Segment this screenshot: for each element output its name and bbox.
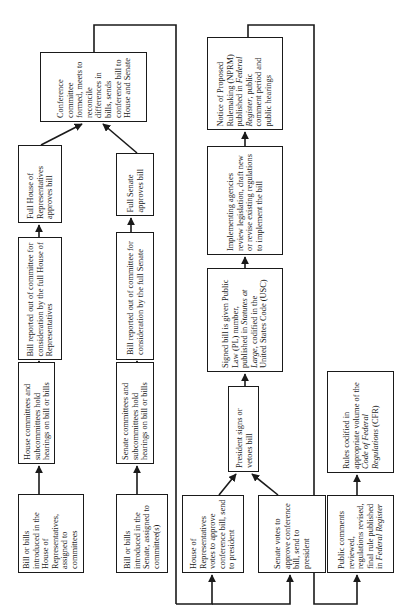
node-senate-intro: Bill or bills introduced in the Senate, … [116, 494, 168, 573]
node-label: Full House of Representatives approves b… [26, 149, 55, 219]
edge-senate-votes-to-president [252, 474, 278, 495]
node-senate-approves: Full Senate approves bill [116, 153, 154, 216]
node-house-reported: Bill reported out of committee for consi… [18, 237, 62, 360]
node-label: House of Representatives votes to approv… [189, 499, 237, 569]
node-house-votes: House of Representatives votes to approv… [182, 495, 244, 573]
edge-house-votes-to-president [219, 474, 236, 495]
node-label: Bill or bills introduced in the Senate, … [123, 499, 161, 569]
italic-title: Federal Register [375, 504, 384, 561]
node-signed-bill: Signed bill is given Public Law (PL) num… [207, 268, 283, 372]
node-house-hearings: House committees and subcommittees hold … [18, 362, 55, 464]
label-part: (CFR) [370, 405, 379, 429]
node-label: Implementing agencies review legislation… [226, 151, 264, 251]
node-label: Full Senate approves bill [126, 157, 145, 212]
node-implementing: Implementing agencies review legislation… [207, 146, 283, 255]
node-senate-hearings: Senate committees and subcommittees hold… [116, 362, 154, 464]
node-label: Bill reported out of committee for consi… [126, 237, 145, 355]
node-label: Public comments reviewed, regulations re… [337, 499, 385, 569]
node-house-intro: Bill or bills introduced in the House of… [18, 494, 84, 573]
node-president: President signs or vetoes bill [228, 386, 259, 472]
node-nprm: Notice of Proposed Rulemaking (NPRM) pub… [207, 37, 283, 130]
node-senate-votes: Senate votes to approve conference bill,… [258, 495, 326, 573]
node-house-approves: Full House of Representatives approves b… [18, 145, 62, 223]
node-label: House committees and subcommittees hold … [22, 366, 51, 460]
node-label: Bill reported out of committee for consi… [26, 241, 55, 356]
node-rules-codified: Rules codified in appropriate volume of … [327, 371, 394, 473]
node-label: Bill or bills introduced in the House of… [22, 499, 80, 569]
edge-senate-approves-to-conference [103, 124, 137, 153]
label-part: Rules codified in appropriate volume of … [342, 382, 361, 469]
node-label: Conference committee formed, meets to re… [55, 56, 132, 118]
legislative-rulemaking-flowchart: Bill or bills introduced in the House of… [0, 0, 404, 615]
node-label: Rules codified in appropriate volume of … [342, 375, 380, 469]
node-label: Signed bill is given Public Law (PL) num… [221, 272, 269, 368]
node-label: Notice of Proposed Rulemaking (NPRM) pub… [216, 41, 274, 126]
node-public-comments: Public comments reviewed, regulations re… [327, 495, 394, 573]
node-senate-reported: Bill reported out of committee for consi… [116, 232, 154, 360]
node-label: Senate votes to approve conference bill,… [273, 499, 311, 569]
node-conference: Conference committee formed, meets to re… [40, 52, 147, 122]
node-label: Senate committees and subcommittees hold… [121, 366, 150, 460]
edge-house-approves-to-conference [41, 124, 82, 145]
node-label: President signs or vetoes bill [234, 390, 253, 468]
